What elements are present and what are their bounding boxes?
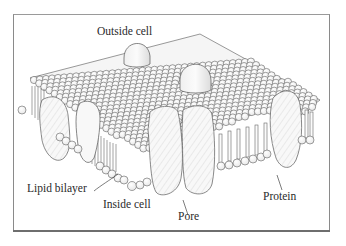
pore-protein-left: [148, 106, 182, 194]
surface-protein-dome-2: [180, 64, 211, 93]
label-pore: Pore: [178, 211, 199, 223]
label-lipid-bilayer: Lipid bilayer: [27, 183, 87, 195]
protein-right: [270, 91, 301, 167]
label-inside-cell: Inside cell: [103, 199, 151, 211]
membrane-diagram: [0, 0, 346, 246]
label-protein: Protein: [263, 191, 296, 203]
protein-left-2: [76, 101, 100, 162]
label-outside-cell: Outside cell: [97, 26, 152, 38]
surface-protein-dome-1: [124, 43, 150, 67]
protein-left: [40, 97, 70, 160]
pore-protein-right: [182, 106, 215, 194]
